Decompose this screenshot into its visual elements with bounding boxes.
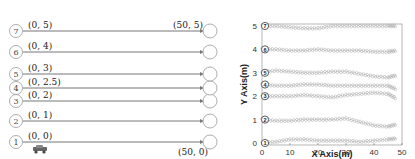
start-coordinate-label: (0, 4) — [28, 41, 52, 51]
x-tick-label: 50 — [398, 148, 407, 157]
destination-circle — [203, 94, 217, 108]
lane-number: 7 — [13, 27, 18, 36]
y-tick-label: 0 — [253, 139, 258, 148]
end-coordinate-label-top: (50, 5) — [173, 20, 203, 30]
destination-circle — [203, 67, 217, 81]
x-tick-label: 10 — [286, 148, 295, 157]
series-number: 1 — [263, 140, 266, 146]
lane-number: 4 — [13, 84, 18, 93]
y-tick-label: 5 — [253, 22, 258, 31]
lane-diagram: 1(0, 0)2(0, 1)3(0, 2)4(0, 2.5)5(0, 3)6(0… — [10, 20, 218, 157]
series-number: 7 — [263, 23, 266, 29]
start-coordinate-label: (0, 1) — [28, 110, 52, 120]
y-tick-label: 2 — [253, 92, 258, 101]
lane-number: 5 — [13, 70, 18, 79]
x-axis-label: X Axis(m) — [311, 149, 352, 159]
destination-circle — [203, 114, 217, 128]
y-axis-label: Y Axis(m) — [239, 64, 249, 105]
car-icon — [33, 145, 47, 154]
y-tick-label: 3 — [253, 69, 258, 78]
lane-6: 6(0, 4) — [10, 41, 218, 59]
destination-circle — [203, 24, 217, 38]
lane-number: 1 — [13, 138, 18, 147]
lane-2: 2(0, 1) — [10, 110, 218, 128]
start-coordinate-label: (0, 0) — [28, 131, 52, 141]
lane-number: 2 — [13, 117, 18, 126]
y-tick-label: 1 — [253, 116, 258, 125]
start-coordinate-label: (0, 3) — [28, 63, 52, 73]
lane-3: 3(0, 2) — [10, 90, 218, 108]
destination-circle — [203, 81, 217, 95]
start-coordinate-label: (0, 2.5) — [28, 77, 61, 87]
lane-number: 6 — [13, 48, 18, 57]
figure: 1(0, 0)2(0, 1)3(0, 2)4(0, 2.5)5(0, 3)6(0… — [0, 0, 415, 159]
x-tick-label: 40 — [370, 148, 379, 157]
series-number: 3 — [263, 93, 266, 99]
series-number: 6 — [263, 47, 266, 53]
lane-number: 3 — [13, 97, 18, 106]
start-coordinate-label: (0, 5) — [28, 20, 52, 30]
trajectory-chart: 01020304050012345X Axis(m)Y Axis(m)12345… — [239, 22, 407, 159]
end-coordinate-label-bottom: (50, 0) — [178, 147, 208, 157]
y-tick-label: 4 — [253, 45, 258, 54]
start-coordinate-label: (0, 2) — [28, 90, 52, 100]
series-number: 2 — [263, 117, 266, 123]
x-tick-label: 0 — [260, 148, 265, 157]
series-number: 5 — [263, 70, 266, 76]
destination-circle — [203, 45, 217, 59]
